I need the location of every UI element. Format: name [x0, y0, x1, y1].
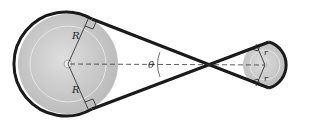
label-R-bottom: R: [71, 84, 80, 95]
crossed-belt-diagram: R R r r θ: [0, 0, 312, 125]
label-theta: θ: [148, 59, 154, 70]
label-R-top: R: [71, 30, 80, 41]
